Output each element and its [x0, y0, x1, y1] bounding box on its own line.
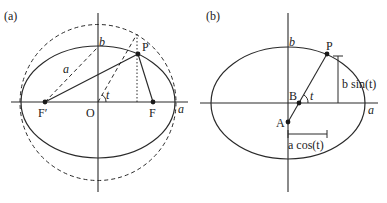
label-t: t: [106, 88, 110, 102]
label-p: P: [326, 39, 333, 53]
label-f: F: [149, 106, 156, 120]
label-point-a: A: [276, 116, 285, 130]
label-a-semi: a: [63, 62, 69, 76]
dashed-semi-major-a: [45, 47, 98, 102]
panel-b-label: (b): [206, 9, 220, 23]
label-f-prime: F′: [38, 106, 48, 120]
label-t: t: [310, 89, 314, 103]
focal-radius-fprime-p: [45, 54, 138, 102]
label-point-b: B: [289, 89, 297, 103]
focus-f-prime-point: [43, 100, 48, 105]
label-a-cos-t: a cos(t): [288, 138, 324, 152]
focus-f-point: [151, 100, 156, 105]
panel-a: (a) b P a t F′ O F a: [4, 9, 188, 192]
line-a-p: [288, 54, 327, 122]
point-b: [297, 101, 302, 106]
label-b-sin-t: b sin(t): [342, 77, 376, 91]
label-a-axis: a: [178, 102, 184, 116]
angle-t-arc: [304, 95, 308, 103]
ellipse-figure: (a) b P a t F′ O F a (b): [0, 0, 387, 203]
label-b: b: [289, 35, 295, 49]
label-o: O: [86, 106, 95, 120]
panel-b: (b) b P B t A a b sin(t) a cos(t): [200, 9, 378, 192]
label-b: b: [99, 35, 105, 49]
point-a: [286, 120, 291, 125]
point-p: [136, 52, 141, 57]
label-p: P: [142, 40, 149, 54]
panel-a-label: (a): [4, 9, 17, 23]
label-a-axis: a: [368, 103, 374, 117]
